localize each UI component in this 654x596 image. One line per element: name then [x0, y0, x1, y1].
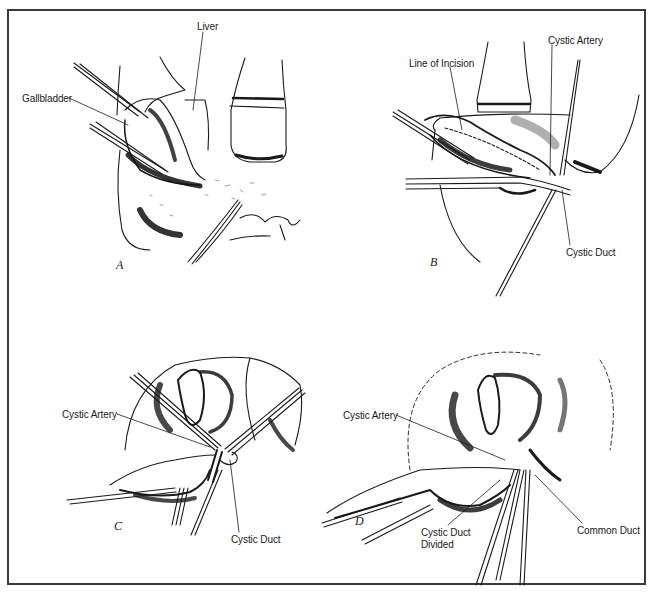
panel-c-drawing: [67, 357, 305, 535]
leader-lines: [69, 32, 582, 532]
panel-a-drawing: [74, 57, 300, 264]
label-common-duct: Common Duct: [577, 525, 640, 536]
panel-letter-b: B: [430, 255, 437, 270]
surgical-illustration: [0, 0, 654, 596]
panel-letter-d: D: [355, 514, 364, 529]
panel-d-drawing: [322, 352, 613, 585]
label-liver: Liver: [197, 21, 218, 32]
label-gallbladder: Gallbladder: [22, 93, 72, 104]
panel-letter-a: A: [116, 258, 123, 273]
label-c-cystic-duct: Cystic Duct: [231, 534, 280, 545]
panel-letter-c: C: [114, 519, 122, 534]
label-cystic-duct-divided-line2: Divided: [421, 539, 454, 550]
label-d-cystic-artery: Cystic Artery: [343, 410, 398, 421]
label-b-cystic-artery: Cystic Artery: [548, 35, 603, 46]
label-cystic-duct-divided-line1: Cystic Duct: [421, 527, 470, 538]
label-b-cystic-duct: Cystic Duct: [566, 247, 615, 258]
label-c-cystic-artery: Cystic Artery: [62, 409, 117, 420]
label-line-of-incision: Line of Incision: [409, 58, 474, 69]
